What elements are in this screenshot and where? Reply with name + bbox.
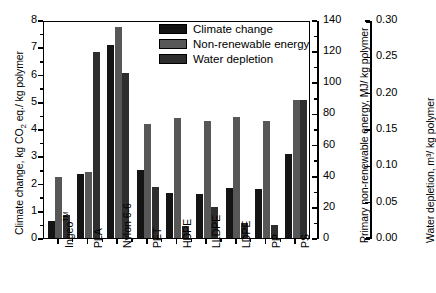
left-axis-minor-tick [40, 61, 43, 62]
legend: Climate changeNon-renewable energyWater … [159, 22, 309, 67]
left-axis-tick-label: 2 [17, 177, 37, 189]
right-axis-1-tick [312, 114, 317, 116]
right-axis-1-minor-tick [314, 36, 317, 37]
left-axis-minor-tick [40, 34, 43, 35]
left-axis-minor-tick [40, 116, 43, 117]
left-axis-tick-label: 6 [17, 68, 37, 80]
bar-climate-change [48, 221, 55, 238]
left-axis-tick-label: 8 [17, 13, 37, 25]
x-axis-tick [57, 239, 59, 244]
right-axis-1-tick-label: 140 [323, 13, 341, 25]
right-axis-1-minor-tick [314, 192, 317, 193]
right-axis-1-minor-tick [314, 160, 317, 161]
right-axis-2-title: Water depletion, m³/ kg polymer [424, 98, 436, 243]
left-axis-tick [38, 156, 43, 158]
left-axis-tick [38, 238, 43, 240]
legend-swatch [159, 39, 187, 49]
right-axis-1-title: Primary non-renewable energy, MJ/ kg pol… [358, 28, 370, 243]
left-axis-tick-label: 3 [17, 149, 37, 161]
legend-item: Climate change [159, 22, 309, 36]
x-axis-tick [294, 239, 296, 244]
right-axis-2-tick [365, 166, 370, 168]
x-axis-tick [265, 239, 267, 244]
left-axis-minor-tick [40, 197, 43, 198]
right-axis-1-tick-label: 100 [323, 75, 341, 87]
right-axis-1-tick-label: 120 [323, 44, 341, 56]
right-axis-1-tick [312, 82, 317, 84]
legend-swatch [159, 24, 187, 34]
left-axis-tick-label: 5 [17, 95, 37, 107]
bar-water-depletion [93, 52, 100, 238]
x-axis-tick [146, 239, 148, 244]
bar-climate-change [226, 188, 233, 238]
legend-swatch [159, 54, 187, 64]
left-axis-minor-tick [40, 170, 43, 171]
left-axis-tick [38, 129, 43, 131]
legend-label: Water depletion [193, 53, 273, 65]
right-axis-2-tick [365, 202, 370, 204]
bar-water-depletion [300, 100, 307, 238]
x-axis-label-nylon-6-6: Nylon 6-6 [121, 203, 133, 248]
right-axis-1-tick [312, 51, 317, 53]
right-axis-2-tick-label: 0.20 [376, 86, 397, 98]
right-axis-1-tick [312, 238, 317, 240]
right-axis-2-tick [365, 129, 370, 131]
right-axis-2-spine [370, 21, 372, 239]
right-axis-2-tick [365, 20, 370, 22]
x-axis-tick [87, 239, 89, 244]
right-axis-1-tick [312, 207, 317, 209]
legend-label: Climate change [193, 23, 273, 35]
right-axis-1-spine [317, 21, 319, 239]
right-axis-2-tick-label: 0.00 [376, 231, 397, 243]
legend-item: Water depletion [159, 52, 309, 66]
x-axis-label-pla: PLA [92, 228, 104, 248]
bar-climate-change [77, 174, 84, 238]
right-axis-1-minor-tick [314, 129, 317, 130]
right-axis-1-tick [312, 20, 317, 22]
left-axis-tick [38, 75, 43, 77]
right-axis-1-tick-label: 80 [323, 106, 335, 118]
left-axis-tick [38, 211, 43, 213]
right-axis-2-tick-label: 0.25 [376, 49, 397, 61]
right-axis-1-tick-label: 60 [323, 138, 335, 150]
right-axis-1-minor-tick [314, 223, 317, 224]
right-axis-1-tick-label: 0 [323, 231, 329, 243]
right-axis-2-tick-label: 0.05 [376, 195, 397, 207]
x-axis-tick [116, 239, 118, 244]
right-axis-1-minor-tick [314, 67, 317, 68]
left-axis-tick [38, 184, 43, 186]
right-axis-2-tick [365, 57, 370, 59]
left-axis-tick [38, 102, 43, 104]
left-axis-tick-label: 4 [17, 122, 37, 134]
right-axis-2-tick [365, 93, 370, 95]
bar-non-renewable-energy [144, 124, 151, 238]
bar-non-renewable-energy [293, 100, 300, 238]
left-axis-tick-label: 0 [17, 231, 37, 243]
bar-climate-change [196, 194, 203, 238]
legend-label: Non-renewable energy [193, 38, 309, 50]
x-axis-tick [205, 239, 207, 244]
left-axis-tick [38, 20, 43, 22]
right-axis-2-tick-label: 0.15 [376, 122, 397, 134]
right-axis-2-tick [365, 238, 370, 240]
bar-non-renewable-energy [85, 172, 92, 238]
bar-climate-change [107, 45, 114, 238]
left-axis-minor-tick [40, 225, 43, 226]
x-axis-label-ps: PS [299, 234, 311, 248]
bar-climate-change [166, 193, 173, 238]
right-axis-1-tick [312, 176, 317, 178]
x-axis-tick [176, 239, 178, 244]
x-axis-label-pet: PET [151, 228, 163, 248]
bar-non-renewable-energy [174, 118, 181, 238]
bar-non-renewable-energy [263, 121, 270, 238]
bar-climate-change [255, 189, 262, 238]
right-axis-1-tick [312, 145, 317, 147]
bar-group [48, 22, 70, 238]
bar-climate-change [137, 170, 144, 238]
x-axis-label-pp: PP [270, 234, 282, 248]
right-axis-1-tick-label: 20 [323, 200, 335, 212]
x-axis-label-hdpe: HDPE [181, 219, 193, 248]
bar-group [137, 22, 159, 238]
right-axis-2-tick-label: 0.10 [376, 158, 397, 170]
